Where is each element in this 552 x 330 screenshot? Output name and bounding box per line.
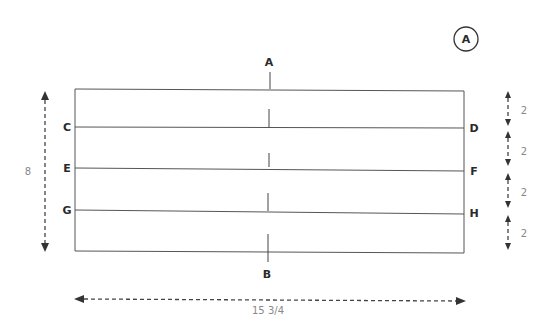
height-dimension-arrow xyxy=(41,91,49,252)
label-g: G xyxy=(62,204,71,217)
width-value: 15 3/4 xyxy=(252,305,284,316)
label-b: B xyxy=(263,268,271,281)
segment-2-value: 2 xyxy=(521,146,527,157)
height-value: 8 xyxy=(25,166,31,177)
segment-4-value: 2 xyxy=(521,228,527,239)
fold-line-ef xyxy=(75,168,464,171)
center-marks xyxy=(268,72,270,262)
badge-label: A xyxy=(462,33,471,46)
segment-1-value: 2 xyxy=(521,105,527,116)
fold-line-gh xyxy=(75,210,464,214)
label-c: C xyxy=(63,121,71,134)
label-a: A xyxy=(265,56,274,69)
label-d: D xyxy=(469,122,478,135)
label-h: H xyxy=(469,207,478,220)
label-f: F xyxy=(470,165,478,178)
segment-3-value: 2 xyxy=(521,187,527,198)
width-dimension-arrow xyxy=(74,295,466,305)
segment-dimension-arrows xyxy=(505,91,511,250)
label-e: E xyxy=(63,162,71,175)
diagram-badge: A xyxy=(454,27,478,51)
fold-line-cd xyxy=(75,127,464,128)
fold-diagram: A A B C E G D F H 8 xyxy=(0,0,552,330)
